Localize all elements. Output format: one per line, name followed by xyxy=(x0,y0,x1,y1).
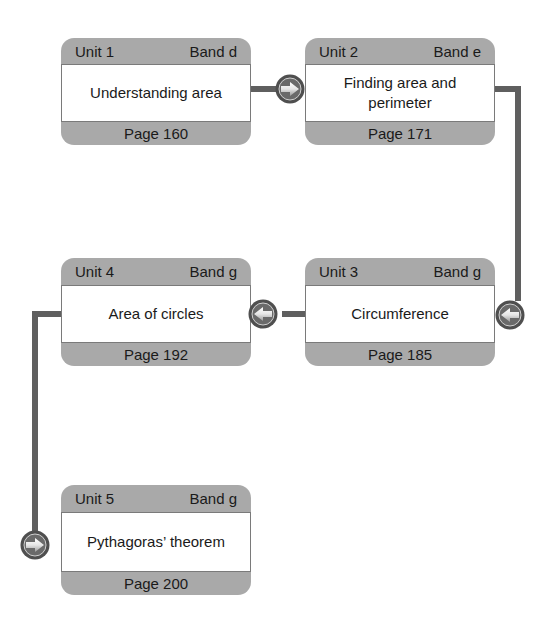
unit-title: Area of circles xyxy=(61,285,251,343)
band-label: Band g xyxy=(433,263,481,280)
unit-title: Pythagoras’ theorem xyxy=(61,512,251,572)
unit-card-2: Unit 2 Band e Finding area and perimeter… xyxy=(305,38,495,145)
band-label: Band g xyxy=(189,490,237,507)
page-label: Page 160 xyxy=(61,122,251,145)
unit-title: Understanding area xyxy=(61,64,251,122)
unit-label: Unit 5 xyxy=(75,490,114,507)
page-label: Page 200 xyxy=(61,572,251,595)
unit-header: Unit 2 Band e xyxy=(305,38,495,64)
unit-header: Unit 4 Band g xyxy=(61,258,251,284)
unit-label: Unit 1 xyxy=(75,43,114,60)
unit-card-3: Unit 3 Band g Circumference Page 185 xyxy=(305,258,495,366)
connector-4-5-vertical xyxy=(32,311,38,533)
unit-title: Finding area and perimeter xyxy=(305,64,495,122)
arrow-right-icon xyxy=(275,74,305,104)
band-label: Band e xyxy=(433,43,481,60)
unit-title: Circumference xyxy=(305,285,495,343)
band-label: Band d xyxy=(189,43,237,60)
arrow-left-icon xyxy=(495,300,525,330)
unit-label: Unit 3 xyxy=(319,263,358,280)
arrow-left-icon xyxy=(248,299,278,329)
unit-card-5: Unit 5 Band g Pythagoras’ theorem Page 2… xyxy=(61,485,251,595)
unit-header: Unit 3 Band g xyxy=(305,258,495,284)
page-label: Page 192 xyxy=(61,343,251,366)
page-label: Page 171 xyxy=(305,122,495,145)
band-label: Band g xyxy=(189,263,237,280)
connector-2-3-vertical xyxy=(515,86,521,301)
unit-header: Unit 5 Band g xyxy=(61,485,251,511)
page-label: Page 185 xyxy=(305,343,495,366)
unit-header: Unit 1 Band d xyxy=(61,38,251,64)
arrow-right-icon xyxy=(20,530,50,560)
connector-3-4 xyxy=(282,311,305,317)
unit-label: Unit 4 xyxy=(75,263,114,280)
unit-label: Unit 2 xyxy=(319,43,358,60)
unit-card-1: Unit 1 Band d Understanding area Page 16… xyxy=(61,38,251,145)
unit-card-4: Unit 4 Band g Area of circles Page 192 xyxy=(61,258,251,366)
